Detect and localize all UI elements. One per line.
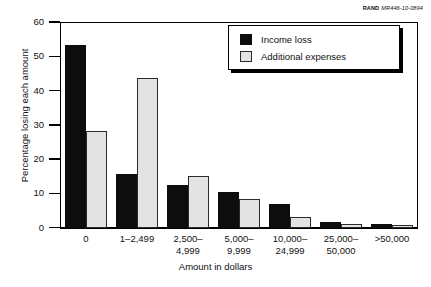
legend-label: Income loss <box>261 34 312 45</box>
bar-additional-expenses <box>86 131 107 228</box>
y-axis-tick <box>49 227 60 229</box>
bar-group <box>61 22 112 228</box>
y-axis-tick <box>49 56 60 58</box>
credit-organization: RAND <box>363 5 380 11</box>
bar-additional-expenses <box>188 176 209 228</box>
y-axis-title: Percentage losing each amount <box>19 16 30 216</box>
bar-income-loss <box>116 174 137 227</box>
y-axis-tick-label: 0 <box>4 223 44 233</box>
rand-credit-line: RANDMR446-10-0894 <box>363 5 423 11</box>
bar-income-loss <box>269 204 290 227</box>
x-axis-title: Amount in dollars <box>0 261 431 272</box>
bar-group <box>163 22 214 228</box>
y-axis-tick-label: 20 <box>4 154 44 164</box>
y-axis-tick <box>49 193 60 195</box>
y-axis-tick-label: 10 <box>4 188 44 198</box>
y-axis-tick-label: 30 <box>4 120 44 130</box>
bar-additional-expenses <box>392 225 413 227</box>
credit-code: MR446-10-0894 <box>381 5 423 11</box>
y-axis-tick <box>49 124 60 126</box>
bar-group <box>112 22 163 228</box>
legend-label: Additional expenses <box>261 51 346 62</box>
bar-additional-expenses <box>239 199 260 227</box>
x-axis-tick-label-line: >50,000 <box>357 233 428 245</box>
x-axis-tick-label-line: 50,000 <box>306 245 377 257</box>
legend-swatch-income-loss <box>240 34 252 45</box>
x-axis-tick-label: >50,000 <box>357 233 428 245</box>
bar-income-loss <box>65 45 86 228</box>
y-axis-tick <box>49 21 60 23</box>
legend-item: Income loss <box>240 31 399 48</box>
y-axis-tick-label: 50 <box>4 51 44 61</box>
y-axis-tick <box>49 158 60 160</box>
bar-income-loss <box>167 185 188 228</box>
chart-legend: Income lossAdditional expenses <box>228 25 400 70</box>
y-axis-tick <box>49 90 60 92</box>
bar-additional-expenses <box>341 224 362 227</box>
bar-income-loss <box>371 224 392 227</box>
y-axis-tick-label: 60 <box>4 17 44 27</box>
bar-income-loss <box>218 192 239 228</box>
y-axis-tick-label: 40 <box>4 86 44 96</box>
legend-swatch-additional-expenses <box>240 51 252 62</box>
bar-income-loss <box>320 222 341 227</box>
bar-chart-figure: RANDMR446-10-0894 Percentage losing each… <box>0 0 431 287</box>
legend-item: Additional expenses <box>240 48 399 65</box>
bar-additional-expenses <box>290 217 311 228</box>
bar-additional-expenses <box>137 78 158 228</box>
